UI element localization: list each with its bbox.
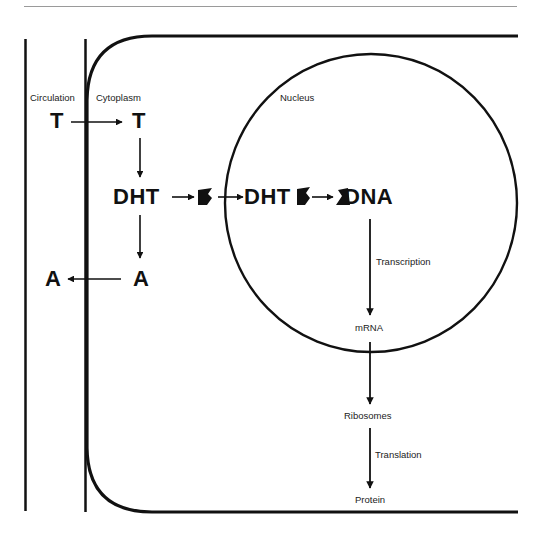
label-translation: Translation <box>375 449 422 460</box>
molecule-t-circulation: T <box>50 108 64 134</box>
label-transcription: Transcription <box>376 256 431 267</box>
androgen-pathway-diagram <box>0 0 544 539</box>
cell-outline <box>87 36 518 512</box>
label-nucleus: Nucleus <box>280 92 314 103</box>
molecule-a-circulation: A <box>45 266 61 292</box>
molecule-t-cytoplasm: T <box>132 108 146 134</box>
molecule-a-cytoplasm: A <box>133 266 149 292</box>
label-protein: Protein <box>355 494 385 505</box>
molecule-dht-cytoplasm: DHT <box>113 184 160 210</box>
molecule-dht-nucleus: DHT <box>244 184 291 210</box>
label-circulation: Circulation <box>30 92 75 103</box>
label-mrna: mRNA <box>355 322 383 333</box>
molecule-dna: DNA <box>344 184 393 210</box>
dht-receptor-complex-icon <box>297 187 310 205</box>
label-ribosomes: Ribosomes <box>344 410 392 421</box>
receptor-icon <box>198 188 212 205</box>
label-cytoplasm: Cytoplasm <box>96 92 141 103</box>
